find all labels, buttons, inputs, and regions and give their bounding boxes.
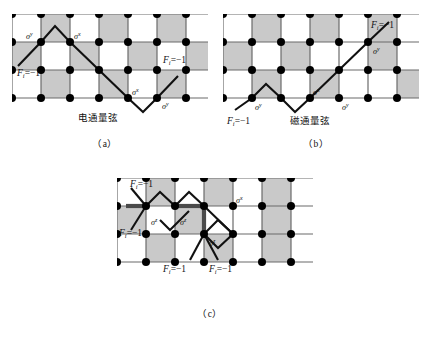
label-f-mid-left: Fi=−1 bbox=[118, 228, 142, 239]
label-f-bottom-right: Fi=−1 bbox=[208, 264, 232, 275]
figure-container: σy σx σx σy Fi=−1 Fi=−1 电通量弦 bbox=[0, 0, 434, 341]
label-sigma-y-left: σy bbox=[26, 31, 33, 41]
label-sigma-y-right: σy bbox=[162, 101, 169, 111]
label-f-upper-right: Fi=−1 bbox=[370, 20, 394, 31]
label-sigma-y-left: σy bbox=[255, 102, 262, 112]
label-sigma-z-left: σz bbox=[151, 217, 158, 227]
inner-caption-b: 磁通量弦 bbox=[290, 115, 330, 126]
label-f-right: Fi=−1 bbox=[162, 55, 186, 66]
label-f-top-left: Fi=−1 bbox=[129, 179, 153, 190]
label-sigma-x-right: σx bbox=[236, 195, 243, 205]
label-sigma-x-mid: σx bbox=[74, 31, 81, 41]
label-f-left: Fi=−1 bbox=[16, 68, 40, 79]
label-sigma-x-right: σx bbox=[132, 87, 139, 97]
caption-c: （c） bbox=[175, 306, 245, 320]
label-sigma-y-mid: σy bbox=[342, 102, 349, 112]
label-f-lower-left: Fi=−1 bbox=[226, 116, 250, 127]
panel-a: σy σx σx σy Fi=−1 Fi=−1 电通量弦 bbox=[12, 14, 208, 132]
caption-a: （a） bbox=[70, 136, 140, 150]
panel-a-diagram: σy σx σx σy Fi=−1 Fi=−1 电通量弦 bbox=[12, 14, 208, 132]
panel-c-diagram: σz σz σx σz Fi=−1 Fi=−1 Fi=−1 Fi=−1 bbox=[117, 178, 313, 296]
panel-b-diagram: σy σx σy σy Fi=−1 Fi=−1 磁通量弦 bbox=[223, 14, 419, 132]
label-f-bottom-left: Fi=−1 bbox=[162, 264, 186, 275]
panel-c: σz σz σx σz Fi=−1 Fi=−1 Fi=−1 Fi=−1 bbox=[117, 178, 313, 296]
inner-caption-a: 电通量弦 bbox=[78, 112, 118, 123]
caption-b: （b） bbox=[281, 136, 351, 150]
panel-b: σy σx σy σy Fi=−1 Fi=−1 磁通量弦 bbox=[223, 14, 419, 132]
